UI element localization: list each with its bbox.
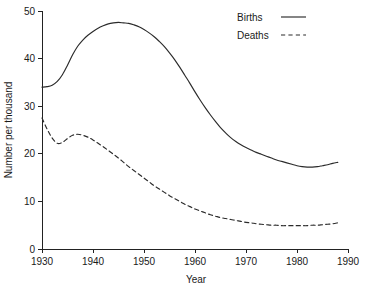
x-tick-label: 1990 xyxy=(337,256,360,267)
x-tick-label: 1960 xyxy=(184,256,207,267)
x-tick-label: 1970 xyxy=(235,256,258,267)
x-tick-label: 1980 xyxy=(286,256,309,267)
chart-canvas: 010203040501930194019501960197019801990 … xyxy=(0,0,371,289)
birth-death-rate-chart: 010203040501930194019501960197019801990 … xyxy=(0,0,371,289)
chart-axes xyxy=(42,11,348,249)
y-tick-label: 10 xyxy=(24,196,36,207)
chart-ticks: 010203040501930194019501960197019801990 xyxy=(24,6,360,268)
legend-label-births: Births xyxy=(237,12,263,23)
y-axis-title: Number per thousand xyxy=(3,82,14,179)
y-tick-label: 20 xyxy=(24,148,36,159)
chart-series xyxy=(42,22,338,225)
x-tick-label: 1950 xyxy=(133,256,156,267)
x-tick-label: 1930 xyxy=(31,256,54,267)
y-tick-label: 50 xyxy=(24,6,36,17)
series-line-births xyxy=(42,22,338,167)
x-tick-label: 1940 xyxy=(82,256,105,267)
y-tick-label: 0 xyxy=(29,244,35,255)
legend-label-deaths: Deaths xyxy=(237,30,269,41)
chart-legend: BirthsDeaths xyxy=(237,12,306,41)
y-tick-label: 30 xyxy=(24,101,36,112)
x-axis-title: Year xyxy=(186,274,207,285)
y-tick-label: 40 xyxy=(24,53,36,64)
series-line-deaths xyxy=(42,118,338,226)
